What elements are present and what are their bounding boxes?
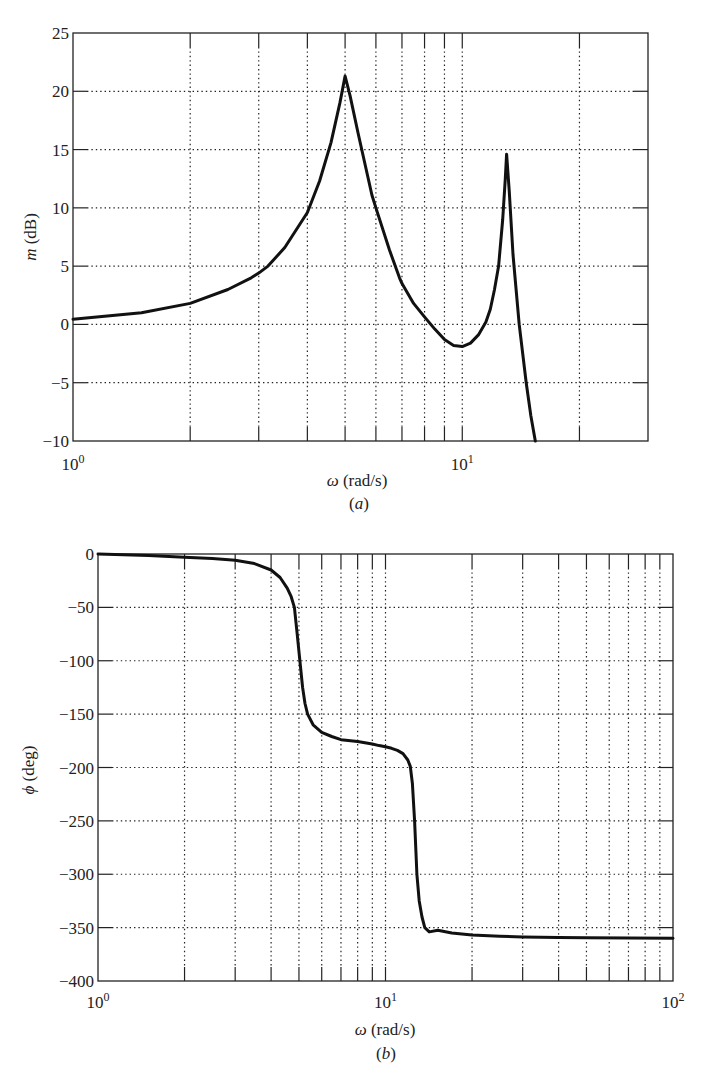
magnitude-y-tick-label: 0	[61, 315, 70, 334]
magnitude-y-tick-labels: −10−50510152025	[42, 24, 69, 451]
magnitude-y-tick-label: −10	[42, 432, 69, 451]
panel-label-b: (b)	[376, 1044, 396, 1063]
phase-y-tick-label: 0	[86, 545, 95, 564]
magnitude-x-tick-label: 100	[62, 452, 85, 474]
magnitude-curve	[73, 76, 535, 441]
phase-x-axis-label-unit: (rad/s)	[367, 1020, 416, 1039]
magnitude-y-axis-label-symbol: m	[21, 249, 40, 261]
phase-y-axis-label: ϕ (deg)	[19, 746, 38, 795]
magnitude-x-axis-label-symbol: ω	[327, 471, 339, 490]
phase-grid	[112, 568, 660, 967]
phase-y-axis-label-symbol: ϕ	[19, 785, 38, 794]
phase-x-tick-labels: 100101102	[87, 990, 685, 1012]
phase-x-tick-label: 100	[87, 990, 110, 1012]
phase-x-axis-label-symbol: ω	[355, 1020, 367, 1039]
magnitude-x-axis-label-unit: (rad/s)	[339, 471, 388, 490]
magnitude-y-tick-label: 5	[61, 257, 70, 276]
phase-y-tick-label: −200	[59, 759, 94, 778]
phase-y-tick-label: −250	[59, 812, 94, 831]
phase-x-axis-label: ω (rad/s)	[355, 1020, 416, 1039]
magnitude-x-axis-label: ω (rad/s)	[327, 471, 388, 490]
magnitude-y-axis-label: m (dB)	[21, 213, 40, 261]
magnitude-y-axis-label-unit: (dB)	[21, 213, 40, 248]
phase-y-tick-label: −400	[59, 972, 94, 991]
phase-y-tick-label: −300	[59, 865, 94, 884]
magnitude-y-tick-label: 10	[52, 199, 69, 218]
panel-label-a: (a)	[349, 494, 369, 513]
magnitude-ticks	[73, 33, 648, 441]
magnitude-y-tick-label: 15	[52, 141, 69, 160]
phase-y-tick-label: −350	[59, 919, 94, 938]
magnitude-plot-frame	[73, 33, 648, 441]
phase-x-tick-label: 102	[662, 990, 685, 1012]
phase-y-tick-label: −50	[67, 598, 94, 617]
phase-y-tick-label: −100	[59, 652, 94, 671]
magnitude-y-tick-label: 25	[52, 24, 69, 43]
magnitude-x-tick-label: 101	[451, 452, 474, 474]
bode-plot-figure: −10−50510152025 100101 m (dB) ω (rad/s) …	[0, 0, 704, 1083]
magnitude-y-tick-label: 20	[52, 82, 69, 101]
magnitude-grid	[87, 47, 634, 427]
phase-x-tick-label: 101	[374, 990, 397, 1012]
phase-y-tick-label: −150	[59, 705, 94, 724]
magnitude-x-tick-labels: 100101	[62, 452, 474, 474]
phase-plot: −400−350−300−250−200−150−100−500 1001011…	[19, 545, 685, 1063]
magnitude-y-tick-label: −5	[51, 374, 69, 393]
phase-y-axis-label-unit: (deg)	[19, 746, 38, 786]
phase-y-tick-labels: −400−350−300−250−200−150−100−500	[59, 545, 94, 991]
magnitude-plot: −10−50510152025 100101 m (dB) ω (rad/s) …	[21, 24, 648, 513]
